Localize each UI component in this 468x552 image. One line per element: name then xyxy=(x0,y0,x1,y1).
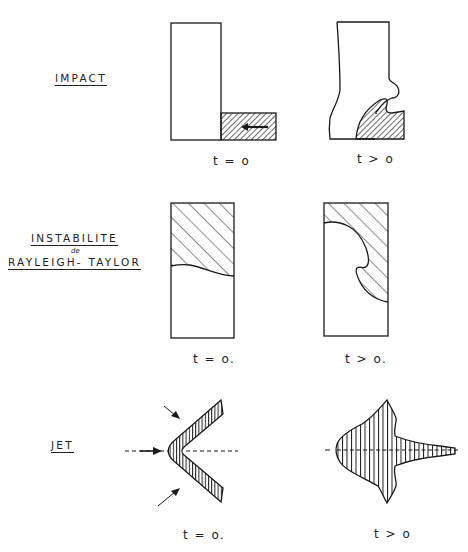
row-label-rt-line2: RAYLEIGH- TAYLOR xyxy=(8,256,141,270)
rt-evolved-figure xyxy=(324,203,388,336)
label-instabilite-text: INSTABILITE xyxy=(31,232,118,246)
jet-evolved-figure xyxy=(325,400,458,503)
time-caption-impact-initial: t = o xyxy=(213,154,250,168)
label-rayleigh-taylor-text: RAYLEIGH- TAYLOR xyxy=(8,256,141,270)
arrow-right-icon xyxy=(153,447,162,455)
arrow-diagonal-down-icon xyxy=(171,411,180,419)
row-label-rt-line1: INSTABILITE xyxy=(31,232,118,246)
row-label-rt-connector: de xyxy=(71,247,80,255)
impact-initial-figure xyxy=(171,23,276,140)
time-caption-jet-initial: t = o. xyxy=(183,528,225,542)
time-caption-rt-evolved: t > o. xyxy=(345,352,387,366)
impact-evolved-figure xyxy=(329,22,404,139)
jet-initial-figure xyxy=(125,400,238,506)
row-label-jet: JET xyxy=(51,439,74,453)
time-caption-rt-initial: t = o. xyxy=(193,352,235,366)
label-impact-text: IMPACT xyxy=(55,72,107,86)
time-caption-jet-evolved: t > o xyxy=(374,527,411,541)
time-caption-impact-evolved: t > o xyxy=(357,152,394,166)
row-label-impact: IMPACT xyxy=(55,72,107,86)
label-jet-text: JET xyxy=(51,439,74,453)
rt-initial-figure xyxy=(171,203,234,338)
